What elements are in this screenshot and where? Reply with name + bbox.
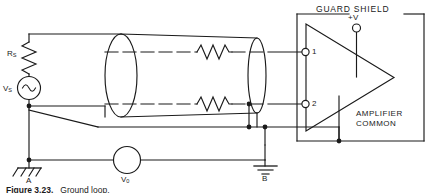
figure-number: Figure 3.23. [6, 185, 53, 193]
terminal-2-label: 2 [312, 99, 316, 108]
ground-b-label: B [262, 174, 267, 183]
meter-voltage-subscript: 0 [126, 178, 129, 184]
terminal-1-label: 1 [312, 47, 316, 56]
terminal-2-circle [302, 100, 309, 107]
figure-ground-loop: GUARD SHIELD +V AMPLIFIER COMMON 1 2 A B… [0, 0, 431, 193]
source-voltage-subscript: S [8, 87, 12, 93]
node-junction-terminal2 [247, 102, 252, 107]
circuit-diagram [0, 0, 431, 193]
figure-caption-text: Ground loop. [60, 185, 109, 193]
ground-symbol-a [13, 160, 41, 176]
amplifier-common-line2: COMMON [356, 119, 403, 129]
source-top-rail [29, 34, 121, 42]
source-voltage-label: VS [3, 84, 12, 93]
figure-caption: Figure 3.23. Ground loop. [6, 185, 110, 193]
amplifier-common-label: AMPLIFIER COMMON [356, 109, 403, 128]
ground-a-label: A [26, 176, 31, 185]
cable-resistance-bottom [197, 97, 232, 111]
node-junction-ground-b [263, 125, 268, 130]
voltmeter-circle [114, 147, 141, 174]
right-common-connections [249, 104, 339, 141]
amplifier-common-line1: AMPLIFIER [356, 109, 403, 119]
ground-symbol-b [254, 160, 277, 174]
node-junction-right-bus [247, 125, 252, 130]
source-resistor-label: RS [7, 49, 17, 58]
supply-label: +V [348, 13, 359, 22]
terminal-1-circle [302, 48, 309, 55]
supply-terminal-circle [353, 24, 361, 32]
meter-voltage-label: V0 [121, 175, 129, 184]
source-resistor [22, 42, 36, 74]
cable-resistance-top [197, 45, 232, 59]
source-resistor-subscript: S [13, 52, 17, 58]
node-junction-vs-bottom [27, 104, 32, 109]
